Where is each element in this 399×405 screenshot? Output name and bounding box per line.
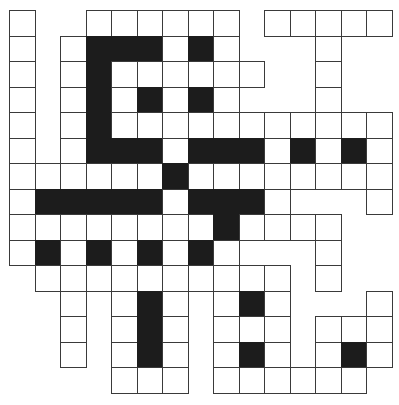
crossword-cell[interactable] (162, 265, 189, 292)
crossword-cell[interactable] (137, 10, 164, 37)
crossword-cell[interactable] (264, 138, 291, 165)
crossword-cell[interactable] (111, 291, 138, 318)
crossword-cell[interactable] (315, 163, 342, 190)
crossword-cell[interactable] (60, 240, 87, 267)
crossword-cell[interactable] (366, 10, 393, 37)
crossword-cell[interactable] (315, 265, 342, 292)
crossword-cell[interactable] (111, 316, 138, 343)
crossword-cell[interactable] (213, 291, 240, 318)
crossword-cell[interactable] (290, 10, 317, 37)
crossword-cell[interactable] (213, 10, 240, 37)
crossword-cell[interactable] (162, 240, 189, 267)
crossword-cell[interactable] (111, 214, 138, 241)
crossword-cell[interactable] (213, 265, 240, 292)
crossword-cell[interactable] (162, 10, 189, 37)
crossword-cell[interactable] (213, 36, 240, 63)
crossword-cell[interactable] (264, 265, 291, 292)
crossword-cell[interactable] (111, 265, 138, 292)
crossword-cell[interactable] (213, 112, 240, 139)
crossword-cell[interactable] (264, 291, 291, 318)
crossword-cell[interactable] (315, 61, 342, 88)
crossword-cell[interactable] (315, 112, 342, 139)
crossword-cell[interactable] (264, 189, 291, 216)
crossword-cell[interactable] (315, 10, 342, 37)
crossword-cell[interactable] (264, 163, 291, 190)
crossword-cell[interactable] (188, 265, 215, 292)
crossword-cell[interactable] (188, 163, 215, 190)
crossword-cell[interactable] (341, 163, 368, 190)
crossword-cell[interactable] (366, 163, 393, 190)
crossword-cell[interactable] (9, 163, 36, 190)
crossword-cell[interactable] (60, 163, 87, 190)
crossword-cell[interactable] (264, 10, 291, 37)
crossword-cell[interactable] (9, 214, 36, 241)
crossword-cell[interactable] (162, 367, 189, 394)
crossword-cell[interactable] (111, 61, 138, 88)
crossword-cell[interactable] (188, 112, 215, 139)
crossword-cell[interactable] (188, 10, 215, 37)
crossword-cell[interactable] (315, 87, 342, 114)
crossword-cell[interactable] (264, 367, 291, 394)
crossword-cell[interactable] (290, 163, 317, 190)
crossword-cell[interactable] (341, 10, 368, 37)
crossword-cell[interactable] (264, 342, 291, 369)
crossword-cell[interactable] (341, 316, 368, 343)
crossword-cell[interactable] (9, 189, 36, 216)
crossword-cell[interactable] (60, 214, 87, 241)
crossword-cell[interactable] (239, 367, 266, 394)
crossword-cell[interactable] (213, 316, 240, 343)
crossword-cell[interactable] (111, 87, 138, 114)
crossword-cell[interactable] (111, 10, 138, 37)
crossword-cell[interactable] (86, 214, 113, 241)
crossword-cell[interactable] (213, 367, 240, 394)
crossword-cell[interactable] (264, 112, 291, 139)
crossword-cell[interactable] (111, 342, 138, 369)
crossword-cell[interactable] (9, 112, 36, 139)
crossword-cell[interactable] (188, 61, 215, 88)
crossword-cell[interactable] (60, 112, 87, 139)
crossword-cell[interactable] (137, 163, 164, 190)
crossword-cell[interactable] (60, 265, 87, 292)
crossword-cell[interactable] (9, 36, 36, 63)
crossword-cell[interactable] (290, 112, 317, 139)
crossword-cell[interactable] (162, 87, 189, 114)
crossword-cell[interactable] (341, 112, 368, 139)
crossword-cell[interactable] (60, 36, 87, 63)
crossword-cell[interactable] (111, 240, 138, 267)
crossword-cell[interactable] (162, 189, 189, 216)
crossword-cell[interactable] (366, 138, 393, 165)
crossword-cell[interactable] (162, 291, 189, 318)
crossword-cell[interactable] (315, 240, 342, 267)
crossword-cell[interactable] (290, 214, 317, 241)
crossword-cell[interactable] (60, 87, 87, 114)
crossword-cell[interactable] (239, 112, 266, 139)
crossword-cell[interactable] (366, 112, 393, 139)
crossword-cell[interactable] (315, 36, 342, 63)
crossword-cell[interactable] (9, 138, 36, 165)
crossword-cell[interactable] (315, 138, 342, 165)
crossword-cell[interactable] (111, 112, 138, 139)
crossword-cell[interactable] (162, 316, 189, 343)
crossword-cell[interactable] (162, 36, 189, 63)
crossword-cell[interactable] (264, 316, 291, 343)
crossword-cell[interactable] (213, 163, 240, 190)
crossword-cell[interactable] (137, 214, 164, 241)
crossword-cell[interactable] (60, 316, 87, 343)
crossword-cell[interactable] (137, 367, 164, 394)
crossword-cell[interactable] (9, 87, 36, 114)
crossword-cell[interactable] (86, 265, 113, 292)
crossword-cell[interactable] (162, 61, 189, 88)
crossword-cell[interactable] (213, 61, 240, 88)
crossword-cell[interactable] (290, 367, 317, 394)
crossword-cell[interactable] (162, 342, 189, 369)
crossword-cell[interactable] (366, 316, 393, 343)
crossword-cell[interactable] (60, 291, 87, 318)
crossword-cell[interactable] (35, 163, 62, 190)
crossword-cell[interactable] (315, 367, 342, 394)
crossword-cell[interactable] (162, 112, 189, 139)
crossword-cell[interactable] (213, 87, 240, 114)
crossword-cell[interactable] (162, 214, 189, 241)
crossword-cell[interactable] (315, 316, 342, 343)
crossword-cell[interactable] (315, 214, 342, 241)
crossword-cell[interactable] (315, 342, 342, 369)
